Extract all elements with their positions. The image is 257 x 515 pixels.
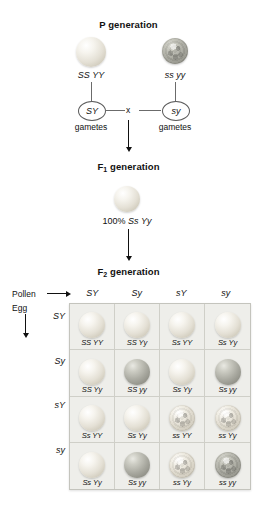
smooth-yellow-seed-icon xyxy=(124,312,150,338)
punnett-cell: ss yy xyxy=(205,443,250,489)
punnett-cell-genotype: Ss yy xyxy=(218,385,236,395)
smooth-yellow-seed-icon xyxy=(76,37,106,67)
arrow-f1-to-f2-icon xyxy=(124,229,133,261)
p-parent1-genotype: SS YY xyxy=(61,70,121,80)
punnett-cell: SS yy xyxy=(115,350,160,396)
smooth-yellow-seed-icon xyxy=(169,312,195,338)
punnett-cell-seed xyxy=(169,312,195,338)
p-parent2-genotype: ss yy xyxy=(145,70,205,80)
punnett-cell-seed xyxy=(79,359,105,385)
punnett-cell-seed xyxy=(169,405,195,431)
punnett-cell: Ss YY xyxy=(70,397,115,443)
smooth-yellow-seed-icon xyxy=(79,405,105,431)
punnett-cell-seed xyxy=(124,312,150,338)
smooth-yellow-seed-icon xyxy=(114,186,140,212)
punnett-cell-genotype: SS yy xyxy=(127,385,146,395)
smooth-yellow-seed-icon xyxy=(124,405,150,431)
f1-generation-heading: F1 generation xyxy=(0,161,257,172)
punnett-cell-genotype: Ss Yy xyxy=(82,478,101,488)
punnett-cell-genotype: Ss Yy xyxy=(172,385,191,395)
pollen-arrow-icon xyxy=(47,289,71,298)
f1-heading-rest: generation xyxy=(107,161,159,172)
p-parent2-seed xyxy=(162,38,188,64)
p-parent1-gamete-circle: SY xyxy=(78,101,106,121)
f1-offspring-seed xyxy=(114,186,140,212)
punnett-cell-genotype: ss yy xyxy=(219,478,236,488)
f1-result-genotype: Ss Yy xyxy=(128,216,151,226)
wrinkled-green-seed-icon xyxy=(162,38,188,64)
punnett-cell-genotype: Ss YY xyxy=(82,431,102,441)
p-parent1-stem-line xyxy=(91,82,92,101)
wrinkled-yellow-seed-icon xyxy=(169,405,195,431)
punnett-cell-seed xyxy=(124,452,150,478)
punnett-cell-seed xyxy=(79,452,105,478)
punnett-cell-genotype: Ss yy xyxy=(128,478,146,488)
wrinkled-yellow-seed-icon xyxy=(169,452,195,478)
smooth-yellow-seed-icon xyxy=(79,359,105,385)
f1-result-percent: 100% xyxy=(103,216,129,226)
f2-generation-heading: F2 generation xyxy=(0,266,257,277)
smooth-yellow-seed-icon xyxy=(79,312,105,338)
pollen-gamete-header-3: sY xyxy=(159,288,204,298)
punnett-cell-genotype: SS Yy xyxy=(82,385,102,395)
wrinkled-green-seed-icon xyxy=(215,452,241,478)
f1-result-label: 100% Ss Yy xyxy=(67,216,187,226)
punnett-cell-genotype: SS Yy xyxy=(127,338,147,348)
pollen-gamete-header-4: sy xyxy=(204,288,249,298)
punnett-cell: Ss Yy xyxy=(205,304,250,350)
f2-heading-rest: generation xyxy=(107,266,159,277)
smooth-yellow-seed-icon xyxy=(169,359,195,385)
punnett-cell-seed xyxy=(79,312,105,338)
punnett-cell-seed xyxy=(79,405,105,431)
punnett-cell: Ss yy xyxy=(205,350,250,396)
punnett-cell: ss YY xyxy=(160,397,205,443)
p-parent2-gametes-label: gametes xyxy=(145,122,205,132)
smooth-green-seed-icon xyxy=(215,359,241,385)
punnett-cell-genotype: Ss Yy xyxy=(218,338,237,348)
punnett-cell: ss Yy xyxy=(160,443,205,489)
punnett-cell-genotype: ss Yy xyxy=(173,478,191,488)
pollen-gamete-header-1: SY xyxy=(70,288,115,298)
smooth-green-seed-icon xyxy=(124,452,150,478)
punnett-cell-seed xyxy=(169,359,195,385)
punnett-cell: SS Yy xyxy=(70,350,115,396)
cross-line-left xyxy=(105,110,125,111)
genetics-diagram: P generation SS YY ss yy SY sy x gametes… xyxy=(0,0,257,515)
smooth-yellow-seed-icon xyxy=(79,452,105,478)
smooth-yellow-seed-icon xyxy=(215,312,241,338)
punnett-cell-seed xyxy=(124,405,150,431)
punnett-cell-genotype: Ss YY xyxy=(172,338,192,348)
p-parent1-seed xyxy=(76,37,106,67)
cross-line-right xyxy=(139,110,161,111)
f2-heading-subscript: 2 xyxy=(103,271,107,278)
cross-symbol: x xyxy=(126,105,130,115)
egg-gamete-header-4: sy xyxy=(34,445,65,455)
punnett-cell: Ss YY xyxy=(160,304,205,350)
arrow-p-to-f1-icon xyxy=(124,120,133,152)
punnett-cell-seed xyxy=(215,405,241,431)
punnett-cell-genotype: ss Yy xyxy=(219,431,237,441)
f1-heading-subscript: 1 xyxy=(103,166,107,173)
punnett-cell-seed xyxy=(215,312,241,338)
pollen-gamete-header-2: Sy xyxy=(115,288,160,298)
p-parent2-gamete-circle: sy xyxy=(162,101,190,121)
egg-gamete-header-3: sY xyxy=(34,400,65,410)
pollen-axis-label: Pollen xyxy=(12,289,36,299)
punnett-cell-seed xyxy=(215,452,241,478)
punnett-cell: SS YY xyxy=(70,304,115,350)
wrinkled-yellow-seed-icon xyxy=(215,405,241,431)
punnett-cell-seed xyxy=(169,452,195,478)
egg-arrow-icon xyxy=(21,314,30,338)
punnett-cell: Ss Yy xyxy=(70,443,115,489)
punnett-cell: SS Yy xyxy=(115,304,160,350)
egg-axis-label: Egg xyxy=(12,303,27,313)
punnett-square-grid: SS YYSS YySs YYSs YySS YySS yySs YySs yy… xyxy=(69,303,251,490)
egg-gamete-header-1: SY xyxy=(34,311,65,321)
punnett-cell-genotype: Ss Yy xyxy=(127,431,146,441)
punnett-cell: Ss Yy xyxy=(160,350,205,396)
punnett-cell-genotype: ss YY xyxy=(172,431,191,441)
smooth-green-seed-icon xyxy=(124,359,150,385)
punnett-cell: Ss yy xyxy=(115,443,160,489)
p-parent2-stem-line xyxy=(175,82,176,101)
punnett-cell-seed xyxy=(215,359,241,385)
